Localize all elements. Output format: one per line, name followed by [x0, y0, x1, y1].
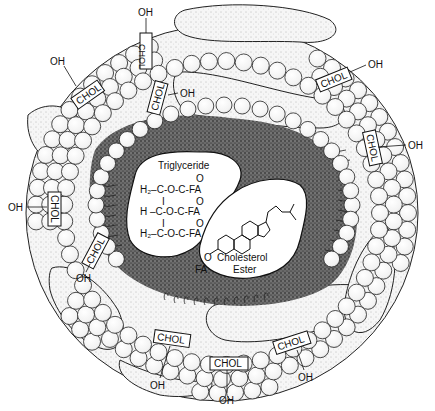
triglyceride-row-3: H₂–C-O-C-FA — [140, 228, 201, 239]
cholesterol-ester-label-2: Ester — [233, 264, 257, 275]
oh-bottom-left: OH — [150, 380, 165, 391]
triglyceride-row-1: H₂–C-O-C-FA — [140, 184, 201, 195]
oh-bottom-right: OH — [298, 372, 313, 383]
lipoprotein-diagram: Triglyceride O H₂–C-O-C-FA I O H –C-O-C-… — [0, 0, 435, 411]
chol-left: CHOL — [48, 192, 61, 226]
triglyceride-row-2: H –C-O-C-FA — [140, 206, 200, 217]
ester-fatty-acid: FA — [195, 264, 208, 275]
oh-right: OH — [408, 140, 423, 151]
oh-lower-left: OH — [76, 273, 91, 284]
chol-top-vertical: CHOL OH — [137, 7, 153, 69]
svg-text:OH: OH — [219, 395, 234, 406]
oh-top-inner: OH — [180, 88, 195, 99]
cholesterol-ester-label-1: Cholesterol — [217, 252, 268, 263]
carbonyl-o-1: O — [196, 173, 204, 184]
svg-text:CHOL: CHOL — [49, 195, 60, 223]
ester-oxygen: O — [204, 252, 212, 263]
svg-text:CHOL: CHOL — [137, 44, 147, 69]
triglyceride-title: Triglyceride — [158, 160, 210, 171]
svg-text:CHOL: CHOL — [214, 358, 242, 369]
oh-top-right: OH — [368, 59, 383, 70]
svg-text:OH: OH — [138, 7, 153, 18]
oh-top-left: OH — [50, 56, 65, 67]
oh-left: OH — [8, 202, 23, 213]
